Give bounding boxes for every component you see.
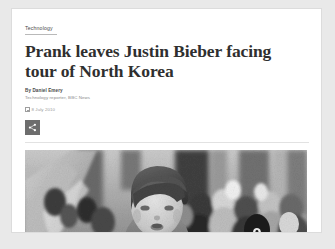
page-title: Prank leaves Justin Bieber facing tour o…: [25, 42, 293, 81]
calendar-icon: [25, 107, 30, 112]
publish-date: 8 July 2010: [32, 107, 56, 113]
byline-author: By Daniel Emery: [25, 88, 309, 94]
article-card: Technology Prank leaves Justin Bieber fa…: [11, 8, 322, 233]
page-background: Technology Prank leaves Justin Bieber fa…: [0, 0, 335, 249]
share-button[interactable]: [25, 120, 40, 135]
byline: By Daniel Emery Technology reporter, BBC…: [25, 88, 309, 101]
byline-role: Technology reporter, BBC News: [25, 95, 309, 101]
category-tag[interactable]: Technology: [25, 25, 57, 35]
publish-date-row: 8 July 2010: [25, 107, 309, 113]
article-photo: 0: [25, 150, 307, 234]
header-divider: [25, 142, 309, 143]
article-header: Technology Prank leaves Justin Bieber fa…: [12, 9, 321, 143]
photo-image: 0: [25, 150, 307, 234]
share-icon: [28, 123, 37, 132]
